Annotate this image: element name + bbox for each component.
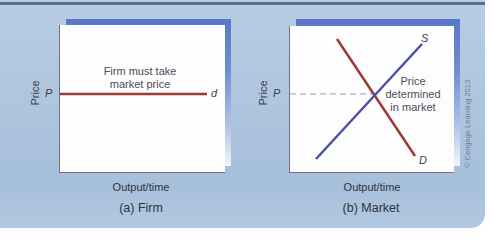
market-y-axis-label: Price — [257, 80, 269, 105]
market-annotation-line2: determined — [385, 88, 440, 101]
market-annotation-line3: in market — [385, 101, 440, 114]
copyright-notice: © Cengage Learning 2013 — [463, 80, 472, 168]
market-demand-label: D — [419, 154, 427, 166]
market-annotation: Price determined in market — [385, 75, 440, 114]
market-caption: (b) Market — [343, 201, 400, 215]
market-annotation-line1: Price — [385, 75, 440, 88]
market-supply-label: S — [421, 32, 428, 44]
market-price-marker: P — [273, 87, 280, 99]
market-x-axis-label: Output/time — [344, 181, 401, 193]
